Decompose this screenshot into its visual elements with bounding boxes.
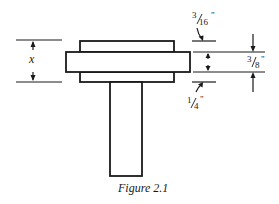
svg-text:16: 16 xyxy=(199,17,209,27)
svg-text:1: 1 xyxy=(187,95,192,105)
svg-text:3: 3 xyxy=(247,54,252,64)
bottom-gap-label: 1 4 " xyxy=(187,94,204,111)
plate-thickness-label: 3 8 " xyxy=(247,54,265,70)
svg-text:": " xyxy=(200,94,204,104)
svg-text:8: 8 xyxy=(255,60,260,70)
middle-plate xyxy=(66,52,190,72)
svg-text:": " xyxy=(261,54,265,64)
svg-text:": " xyxy=(211,10,215,20)
stem xyxy=(110,82,142,176)
top-gap-label: 3 16 " xyxy=(192,10,215,27)
x-label: x xyxy=(28,52,35,66)
figure-2-1-diagram: x 3 16 " 3 8 " 1 xyxy=(0,0,279,204)
x-dimension xyxy=(16,40,62,82)
svg-text:4: 4 xyxy=(194,101,199,111)
figure-caption: Figure 2.1 xyxy=(117,181,168,195)
top-plate xyxy=(80,41,174,52)
svg-text:3: 3 xyxy=(192,10,197,20)
bottom-plate xyxy=(80,72,174,82)
